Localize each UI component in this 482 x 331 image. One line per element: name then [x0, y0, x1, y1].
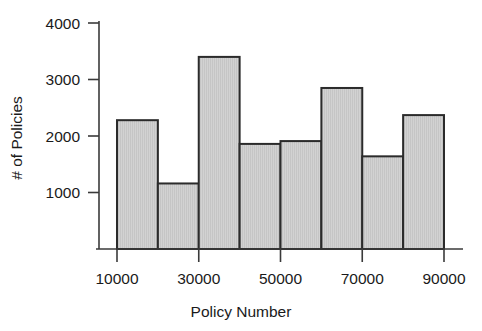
x-axis-title: Policy Number [191, 303, 292, 320]
y-axis-tick-label: 2000 [46, 128, 81, 145]
x-axis-tick-label: 30000 [177, 270, 220, 287]
histogram-bar [281, 141, 322, 249]
histogram-bar [403, 115, 444, 249]
histogram-chart: 1000200030004000 10000300005000070000900… [0, 0, 482, 331]
y-axis-title: # of Policies [8, 96, 25, 180]
y-axis-tick-label: 3000 [46, 71, 81, 88]
histogram-bar [362, 156, 403, 249]
histogram-bar [199, 57, 240, 249]
histogram-bar [158, 183, 199, 249]
histogram-bar [321, 88, 362, 249]
x-axis-tick-label: 50000 [259, 270, 302, 287]
x-axis-tick-label: 70000 [341, 270, 384, 287]
chart-svg: 1000200030004000 10000300005000070000900… [0, 0, 482, 331]
histogram-bar [240, 144, 281, 249]
histogram-bar [117, 120, 158, 249]
y-axis-tick-label: 1000 [46, 184, 81, 201]
y-axis-tick-label: 4000 [46, 15, 81, 32]
x-axis-tick-label: 10000 [95, 270, 138, 287]
x-axis-tick-label: 90000 [422, 270, 465, 287]
